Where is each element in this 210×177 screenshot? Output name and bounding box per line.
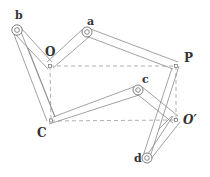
joint-b [12,25,22,35]
joint-c [133,85,143,95]
pivot-Oprime [175,119,178,122]
label-b: b [15,9,23,22]
dashed-line-O-C [50,66,51,121]
dashed-line-C-Oprime [51,120,176,121]
joint-d [142,153,152,163]
label-O: O [45,45,55,59]
pivot-C [50,119,53,122]
link-a-P [86,28,178,69]
label-c: c [142,73,149,86]
label-C: C [37,126,47,140]
pivot-O [49,65,52,68]
linkage-diagram: b a O P c C O′ d [0,0,210,177]
link-d-Oprime [148,116,180,160]
joint-a [82,27,92,37]
label-d: d [134,152,142,165]
label-a: a [87,15,94,28]
links [13,27,180,160]
pivot-P [175,65,178,68]
label-P: P [184,51,193,65]
label-O-prime: O′ [183,113,197,127]
link-C-c [49,86,139,124]
